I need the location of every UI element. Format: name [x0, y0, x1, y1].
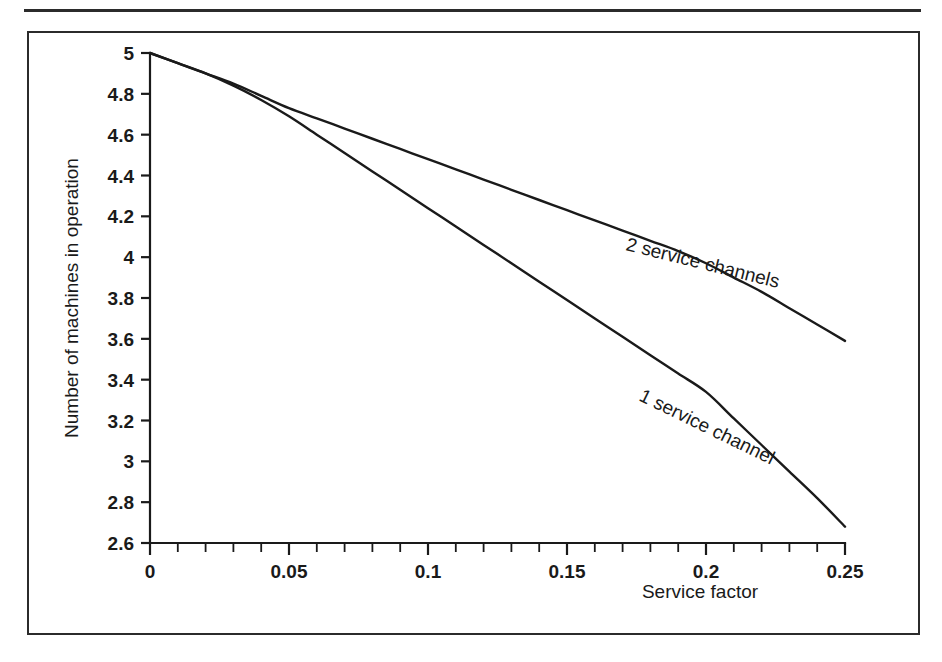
y-tick-label: 3: [123, 451, 134, 472]
y-tick-label: 4.6: [108, 125, 134, 146]
series-curves: [150, 53, 845, 527]
x-tick-label: 0.15: [549, 561, 586, 582]
y-tick-label: 4.8: [108, 84, 134, 105]
y-axis-title: Number of machines in operation: [61, 158, 82, 438]
y-axis-ticks: 2.62.833.23.43.63.844.24.44.64.85: [108, 43, 150, 554]
x-tick-label: 0.2: [693, 561, 719, 582]
x-tick-label: 0: [145, 561, 156, 582]
y-tick-label: 2.6: [108, 533, 134, 554]
x-tick-label: 0.05: [271, 561, 308, 582]
x-tick-label: 0.25: [827, 561, 864, 582]
y-tick-label: 4: [123, 247, 134, 268]
series-curve-1: [150, 53, 845, 527]
x-axis-ticks: 00.050.10.150.20.25: [145, 543, 864, 582]
line-chart: 2.62.833.23.43.63.844.24.44.64.85 00.050…: [0, 0, 942, 662]
y-tick-label: 3.8: [108, 288, 134, 309]
figure-page: 2.62.833.23.43.63.844.24.44.64.85 00.050…: [0, 0, 942, 662]
x-tick-label: 0.1: [415, 561, 442, 582]
y-tick-label: 3.6: [108, 329, 134, 350]
y-tick-label: 2.8: [108, 492, 134, 513]
y-tick-label: 5: [123, 43, 134, 64]
y-tick-label: 4.2: [108, 206, 134, 227]
y-tick-label: 3.2: [108, 411, 134, 432]
series-inline-labels: 2 service channels 1 service channel: [624, 234, 782, 469]
x-axis-title: Service factor: [642, 581, 759, 602]
y-tick-label: 4.4: [108, 166, 135, 187]
series-label-1-service-channel: 1 service channel: [636, 385, 778, 469]
y-tick-label: 3.4: [108, 370, 135, 391]
axes-group: [150, 53, 845, 543]
series-label-2-service-channels: 2 service channels: [624, 234, 782, 292]
